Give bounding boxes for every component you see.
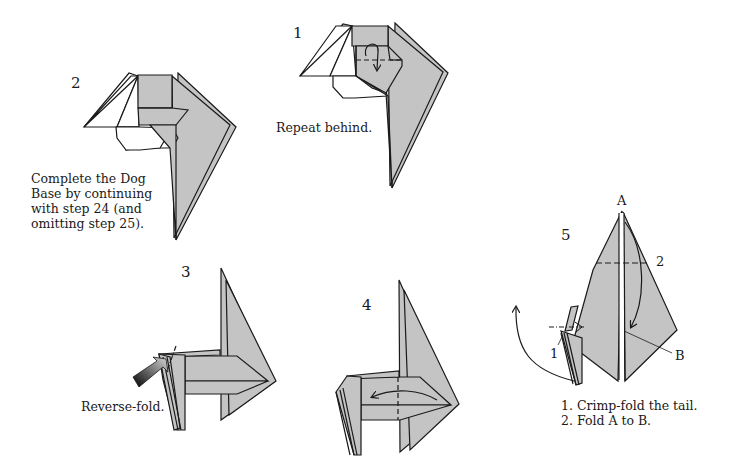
step-number-4: 4 [362, 296, 372, 314]
step-number-1: 1 [293, 24, 303, 42]
caption-line: Base by continuing [31, 186, 152, 201]
step-2-caption: Complete the Dog Base by continuing with… [31, 171, 152, 231]
fold-label-2: 2 [656, 254, 664, 269]
fold-label-1: 1 [550, 346, 558, 361]
step-number-3: 3 [181, 263, 191, 281]
step-4-figure [336, 280, 459, 455]
caption-line: omitting step 25). [31, 216, 152, 231]
step-5-caption: 1. Crimp-fold the tail. 2. Fold A to B. [561, 398, 698, 428]
step-number-5: 5 [561, 226, 571, 244]
step-1-caption: Repeat behind. [276, 120, 372, 135]
caption-line: with step 24 (and [31, 201, 152, 216]
step-number-2: 2 [71, 74, 81, 92]
caption-line: Complete the Dog [31, 171, 152, 186]
step-5-figure [516, 211, 677, 385]
caption-line: 1. Crimp-fold the tail. [561, 398, 698, 413]
point-label-a: A [617, 193, 626, 208]
point-label-b: B [675, 348, 685, 363]
caption-line: 2. Fold A to B. [561, 413, 698, 428]
step-3-caption: Reverse-fold. [81, 399, 164, 414]
step-1-figure [300, 23, 448, 188]
origami-diagram-page: 1 2 3 4 5 Repeat behind. Complete the Do… [0, 0, 729, 468]
